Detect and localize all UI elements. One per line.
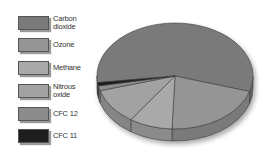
pie-chart: Carbon dioxideOzoneMethaneNitrous oxideC… [0, 0, 272, 158]
pie-slices: Carbon dioxideOzoneMethaneNitrous oxideC… [97, 23, 253, 141]
